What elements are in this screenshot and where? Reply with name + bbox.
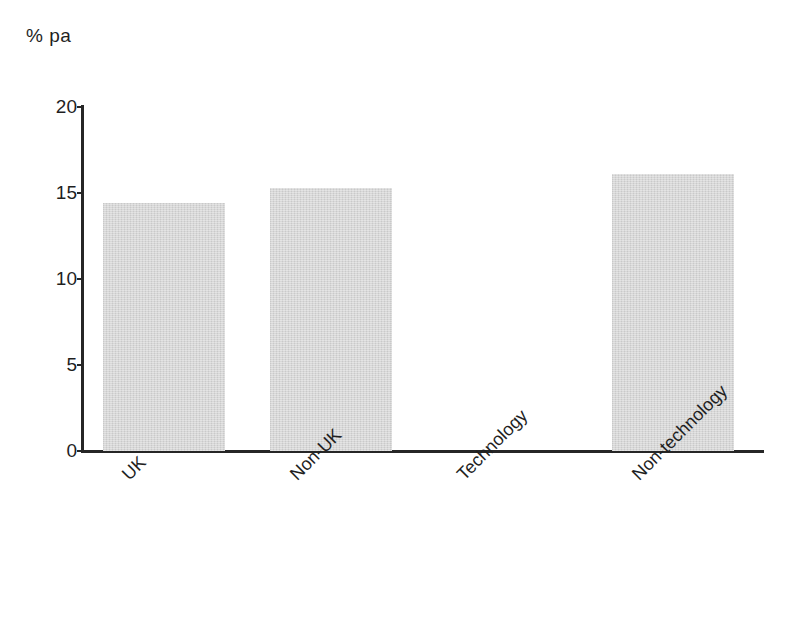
y-tick-label-5: 5 bbox=[43, 354, 77, 376]
y-tick-mark-10 bbox=[77, 278, 82, 280]
y-tick-mark-20 bbox=[77, 106, 82, 108]
y-tick-label-10: 10 bbox=[43, 268, 77, 290]
y-tick-label-15: 15 bbox=[43, 182, 77, 204]
bar-uk bbox=[103, 203, 225, 451]
y-tick-label-0: 0 bbox=[43, 440, 77, 462]
bar-non-uk bbox=[270, 188, 392, 451]
y-tick-mark-5 bbox=[77, 364, 82, 366]
plot-area: 05101520 UKNon-UKTechnologyNon-technolog… bbox=[0, 0, 803, 635]
y-tick-mark-15 bbox=[77, 192, 82, 194]
y-tick-mark-0 bbox=[77, 450, 82, 452]
bar-chart: % pa 05101520 UKNon-UKTechnologyNon-tech… bbox=[0, 0, 803, 635]
x-label-uk: UK bbox=[118, 452, 151, 485]
x-label-technology: Technology bbox=[453, 406, 532, 485]
y-tick-label-20: 20 bbox=[43, 96, 77, 118]
